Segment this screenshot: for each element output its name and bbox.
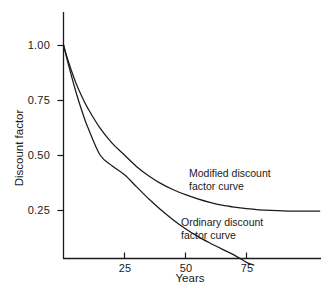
x-tick-label-25: 25 (110, 262, 140, 274)
y-axis-title: Discount factor (13, 93, 25, 203)
y-tick-label-1-00: 1.00 (10, 39, 50, 51)
ordinary-curve-annotation: Ordinary discount factor curve (181, 216, 263, 241)
modified-curve-annotation: Modified discount factor curve (189, 167, 271, 192)
x-axis-title: Years (155, 272, 225, 284)
discount-factor-chart: 1.00 0.75 0.50 0.25 25 50 75 Discount fa… (0, 0, 328, 302)
y-tick-label-0-25: 0.25 (10, 204, 50, 216)
x-tick-label-75: 75 (232, 262, 262, 274)
